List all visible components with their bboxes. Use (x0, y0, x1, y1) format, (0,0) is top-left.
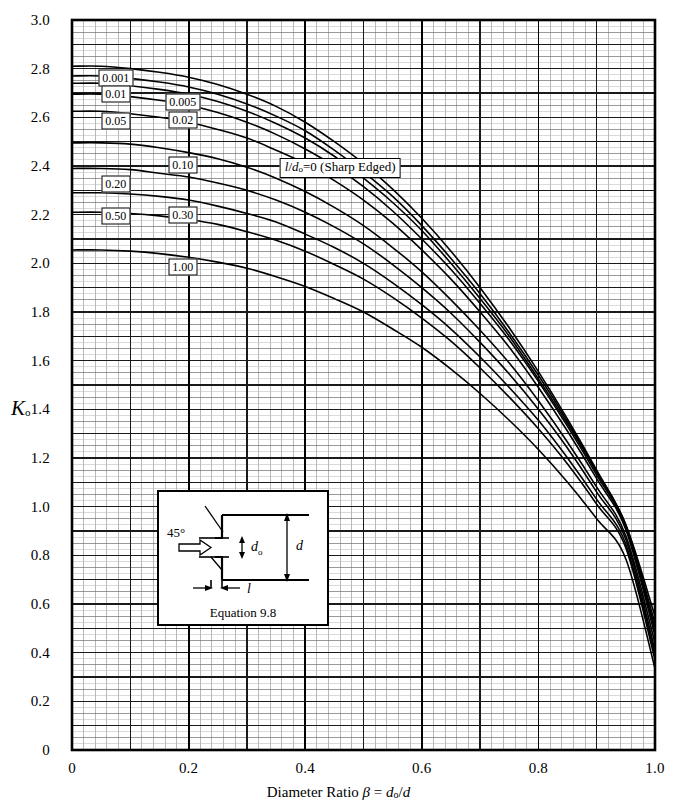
y-tick-3.0: 3.0 (31, 12, 50, 29)
y-tick-2.2: 2.2 (31, 206, 50, 223)
y-tick-1.4: 1.4 (31, 401, 50, 418)
inset-caption: Equation 9.8 (159, 605, 327, 621)
x-axis-title-equals: = (370, 784, 386, 800)
y-tick-1.8: 1.8 (31, 304, 50, 321)
x-tick-1.0: 1.0 (645, 760, 664, 777)
inset-angle-label: 45° (167, 525, 185, 541)
y-tick-0.6: 0.6 (31, 596, 50, 613)
curve-label-0.01: 0.01 (101, 86, 130, 103)
y-tick-1.6: 1.6 (31, 352, 50, 369)
curve-label-0.10: 0.10 (168, 156, 197, 173)
y-axis-title-subscript: o (25, 406, 31, 418)
x-tick-0.4: 0.4 (296, 760, 315, 777)
y-tick-0: 0 (42, 742, 50, 759)
x-tick-0.2: 0.2 (179, 760, 198, 777)
curve-label-0.05: 0.05 (101, 112, 130, 129)
orifice-schematic-inset: 45° do d l Equation 9.8 (157, 490, 329, 626)
x-tick-0.8: 0.8 (529, 760, 548, 777)
x-axis-title-beta: β (363, 784, 370, 800)
inset-l-label: l (247, 581, 251, 597)
y-tick-2.0: 2.0 (31, 255, 50, 272)
sharp-edged-annotation: l/do=0 (Sharp Edged) (280, 158, 401, 178)
y-tick-0.8: 0.8 (31, 547, 50, 564)
y-tick-2.4: 2.4 (31, 158, 50, 175)
curve-label-0.20: 0.20 (101, 176, 130, 193)
y-tick-0.4: 0.4 (31, 644, 50, 661)
y-tick-1.0: 1.0 (31, 498, 50, 515)
curve-label-0.30: 0.30 (168, 206, 197, 223)
y-tick-2.6: 2.6 (31, 109, 50, 126)
x-axis-title-do: d (386, 784, 394, 800)
inset-do-label: do (251, 539, 263, 557)
figure-root: 00.20.40.60.81.01.21.41.61.82.02.22.42.6… (0, 0, 677, 811)
y-tick-2.8: 2.8 (31, 60, 50, 77)
annotation-equals-zero: =0 (Sharp Edged) (303, 159, 396, 174)
y-tick-0.2: 0.2 (31, 693, 50, 710)
curve-label-0.005: 0.005 (165, 93, 200, 110)
x-axis-title-prefix: Diameter Ratio (267, 784, 363, 800)
inset-d-label: d (296, 538, 303, 554)
curve-label-1.00: 1.00 (168, 258, 197, 275)
orifice-schematic-drawing (159, 492, 323, 620)
curve-label-0.50: 0.50 (101, 207, 130, 224)
x-axis-title: Diameter Ratio β = do/d (0, 784, 677, 801)
x-axis-title-d: d (403, 784, 411, 800)
curve-label-0.02: 0.02 (168, 111, 197, 128)
x-tick-0.6: 0.6 (412, 760, 431, 777)
y-tick-1.2: 1.2 (31, 450, 50, 467)
y-axis-title: Ko (11, 396, 31, 421)
x-tick-0: 0 (68, 760, 76, 777)
curve-label-0.001: 0.001 (98, 70, 133, 87)
y-axis-title-text: K (11, 396, 25, 420)
